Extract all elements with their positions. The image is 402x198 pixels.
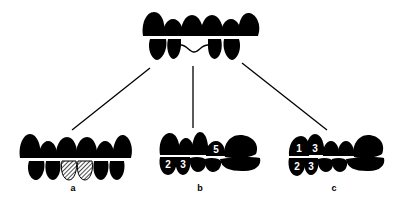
- panel-label-c: c: [331, 183, 336, 193]
- panel-b: 2 3 5 b: [159, 132, 260, 193]
- top-arch: [143, 12, 260, 60]
- tooth-number: 2: [165, 159, 171, 170]
- tooth-number: 3: [312, 143, 318, 154]
- tooth-number: 3: [308, 161, 314, 172]
- tooth-number: 1: [296, 143, 302, 154]
- tooth-number: 2: [294, 161, 300, 172]
- panel-label-b: b: [197, 183, 203, 193]
- dental-diagram: a 2 3 5 b 1 3 2 3 c: [0, 0, 402, 198]
- panel-a: a: [20, 134, 132, 193]
- connector-to-c: [242, 63, 327, 130]
- tooth-number: 5: [213, 144, 219, 155]
- panel-label-a: a: [70, 183, 76, 193]
- tooth-number: 3: [180, 159, 186, 170]
- connector-to-a: [72, 68, 150, 130]
- panel-c: 1 3 2 3 c: [288, 134, 384, 193]
